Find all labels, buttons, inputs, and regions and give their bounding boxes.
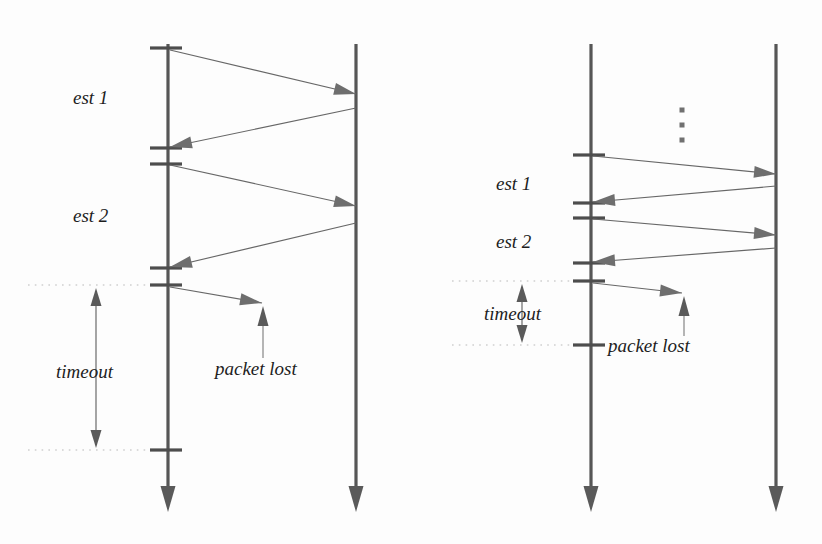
request-n-arrowhead <box>754 166 776 178</box>
timeout-dimension-arrowhead-down <box>517 325 528 343</box>
vertical-ellipsis-dot-2 <box>680 138 685 143</box>
request-n <box>593 156 776 174</box>
timeout-dimension-arrowhead-down <box>91 430 102 448</box>
server-lifeline-arrowhead <box>769 486 784 512</box>
est1-label: est 1 <box>496 173 531 194</box>
vertical-ellipsis-dot-0 <box>680 108 685 113</box>
right-diagram: est 1est 2timeoutpacket lost <box>452 44 784 512</box>
response-n <box>593 186 776 202</box>
client-lifeline-arrowhead <box>161 486 176 512</box>
response-n1 <box>593 248 776 262</box>
request-1-arrowhead <box>333 83 356 95</box>
request-2 <box>170 165 356 206</box>
packet-lost-pointer-arrowhead <box>258 306 269 326</box>
est2-label: est 2 <box>73 205 109 226</box>
left-diagram: est 1est 2timeoutpacket lost <box>28 44 364 512</box>
est1-label: est 1 <box>73 87 108 108</box>
figure-canvas: est 1est 2timeoutpacket lostest 1est 2ti… <box>0 0 822 544</box>
response-2-arrowhead <box>170 256 193 268</box>
request-n2-lost-arrowhead <box>659 285 682 297</box>
timeout-label: timeout <box>56 361 114 382</box>
response-2 <box>170 223 356 267</box>
packet-lost-label: packet lost <box>213 358 298 379</box>
request-n1 <box>593 219 776 235</box>
client-lifeline-arrowhead <box>584 486 599 512</box>
request-2-arrowhead <box>333 195 356 207</box>
response-1 <box>170 108 356 147</box>
timeout-dimension-arrowhead-up <box>91 288 102 306</box>
sequence-diagram-svg: est 1est 2timeoutpacket lostest 1est 2ti… <box>0 0 822 544</box>
request-n1-arrowhead <box>754 227 776 239</box>
request-1 <box>170 50 356 94</box>
timeout-label: timeout <box>484 303 542 324</box>
packet-lost-pointer-arrowhead <box>679 296 690 316</box>
vertical-ellipsis-dot-1 <box>680 123 685 128</box>
est2-label: est 2 <box>496 231 532 252</box>
response-1-arrowhead <box>170 137 193 149</box>
server-lifeline-arrowhead <box>349 486 364 512</box>
timeout-dimension-arrowhead-up <box>517 284 528 302</box>
packet-lost-label: packet lost <box>606 335 691 356</box>
request-3-lost-arrowhead <box>239 293 262 305</box>
